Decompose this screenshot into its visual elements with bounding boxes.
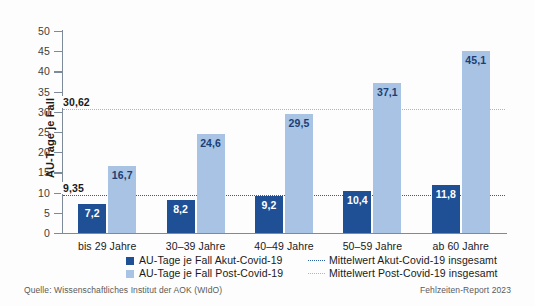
bar-group: 9,229,5 <box>240 31 328 233</box>
legend-dotted-line-post-icon <box>308 273 325 274</box>
y-tick-label: 45 <box>0 45 50 57</box>
bar-acute[interactable]: 10,4 <box>343 191 371 233</box>
bar-value-label: 7,2 <box>85 207 100 219</box>
legend-column-means: Mittelwert Akut-Covid-19 insgesamt Mitte… <box>308 254 498 280</box>
y-tick-mark <box>54 213 62 214</box>
category-label: ab 60 Jahre <box>417 240 505 252</box>
legend-item-mean-acute: Mittelwert Akut-Covid-19 insgesamt <box>308 254 498 267</box>
legend-column-series: AU-Tage je Fall Akut-Covid-19 AU-Tage je… <box>126 254 283 280</box>
category-label: 40–49 Jahre <box>240 240 328 252</box>
y-tick-label: 0 <box>0 227 50 239</box>
y-tick-mark <box>54 92 62 93</box>
bar-post[interactable]: 16,7 <box>108 166 136 233</box>
y-tick-label: 30 <box>0 106 50 118</box>
bar-group: 8,224,6 <box>151 31 239 233</box>
chart-figure: AU-Tage je Fall 05101520253035404550 9,3… <box>0 0 535 306</box>
bar-value-label: 8,2 <box>173 203 188 215</box>
bar-post[interactable]: 37,1 <box>373 83 401 233</box>
legend-item-mean-post: Mittelwert Post-Covid-19 insgesamt <box>308 267 498 280</box>
legend-label-mean-acute: Mittelwert Akut-Covid-19 insgesamt <box>329 254 497 267</box>
report-note: Fehlzeiten-Report 2023 <box>420 285 511 295</box>
y-tick-mark <box>54 172 62 173</box>
legend-item-acute: AU-Tage je Fall Akut-Covid-19 <box>126 254 283 267</box>
bar-value-label: 11,8 <box>436 188 456 200</box>
y-tick-mark <box>54 132 62 133</box>
bar-value-label: 45,1 <box>465 54 486 66</box>
bar-post[interactable]: 29,5 <box>285 114 313 233</box>
legend-label-mean-post: Mittelwert Post-Covid-19 insgesamt <box>329 267 498 280</box>
y-tick-label: 20 <box>0 146 50 158</box>
y-tick-label: 25 <box>0 126 50 138</box>
y-tick-mark <box>54 112 62 113</box>
y-tick-label: 50 <box>0 25 50 37</box>
bar-value-label: 10,4 <box>347 194 368 206</box>
bar-value-label: 9,2 <box>262 199 277 211</box>
bar-group: 11,845,1 <box>417 31 505 233</box>
bar-value-label: 29,5 <box>289 117 310 129</box>
bar-group: 10,437,1 <box>328 31 416 233</box>
y-tick-mark <box>54 51 62 52</box>
bar-acute[interactable]: 9,2 <box>255 196 283 233</box>
bar-acute[interactable]: 11,8 <box>432 185 460 233</box>
bar-value-label: 24,6 <box>200 137 221 149</box>
category-label: 50–59 Jahre <box>328 240 416 252</box>
category-label: 30–39 Jahre <box>151 240 239 252</box>
y-tick-mark <box>54 31 62 32</box>
bar-value-label: 37,1 <box>377 86 398 98</box>
bar-post[interactable]: 24,6 <box>197 134 225 233</box>
bar-post[interactable]: 45,1 <box>462 51 490 233</box>
source-note: Quelle: Wissenschaftliches Institut der … <box>24 285 222 295</box>
y-tick-label: 35 <box>0 86 50 98</box>
plot-area: 9,3530,62 7,216,78,224,69,229,510,437,11… <box>63 31 505 233</box>
y-tick-mark <box>54 152 62 153</box>
legend-swatch-acute-icon <box>126 257 134 265</box>
bar-acute[interactable]: 8,2 <box>167 200 195 233</box>
bar-group: 7,216,7 <box>63 31 151 233</box>
bar-acute[interactable]: 7,2 <box>78 204 106 233</box>
legend-dotted-line-acute-icon <box>308 260 325 261</box>
legend-label-post: AU-Tage je Fall Post-Covid-19 <box>139 267 283 280</box>
x-axis-line <box>62 233 507 234</box>
category-label: bis 29 Jahre <box>63 240 151 252</box>
bar-value-label: 16,7 <box>112 169 133 181</box>
legend-swatch-post-icon <box>126 270 134 278</box>
legend-item-post: AU-Tage je Fall Post-Covid-19 <box>126 267 283 280</box>
y-tick-label: 40 <box>0 65 50 77</box>
y-tick-label: 10 <box>0 187 50 199</box>
legend-label-acute: AU-Tage je Fall Akut-Covid-19 <box>139 254 283 267</box>
y-tick-label: 15 <box>0 166 50 178</box>
y-tick-label: 5 <box>0 207 50 219</box>
y-tick-mark <box>54 71 62 72</box>
y-tick-mark <box>54 233 62 234</box>
